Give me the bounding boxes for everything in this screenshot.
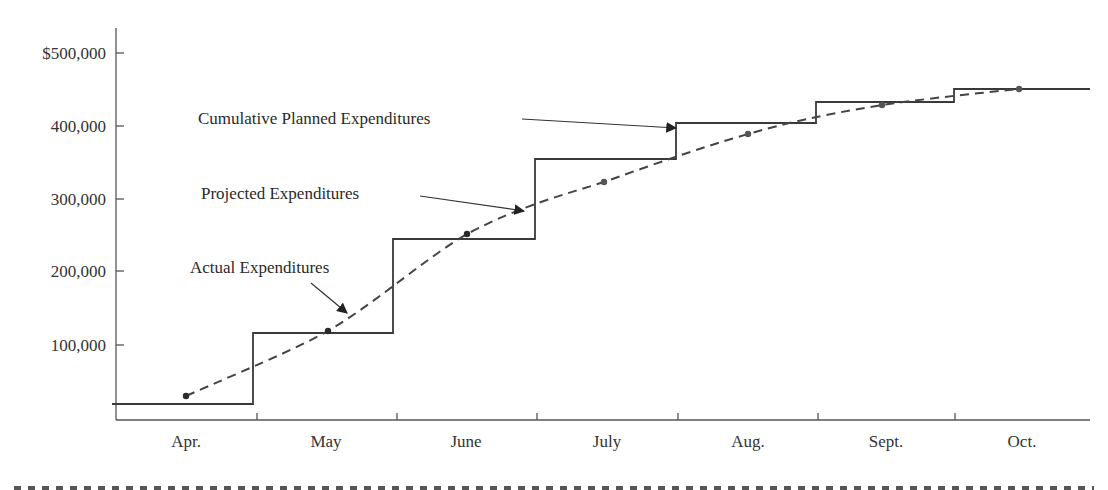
y-ticks (116, 53, 124, 345)
data-point (601, 179, 607, 185)
y-tick-label: 100,000 (51, 336, 106, 355)
projected-dashed-line (186, 89, 1019, 396)
annotation-projected: Projected Expenditures (201, 184, 359, 203)
x-tick-label: Apr. (171, 432, 201, 451)
arrow-icon (311, 283, 347, 313)
x-tick-label: June (450, 432, 481, 451)
data-point (879, 102, 885, 108)
x-tick-label: July (593, 432, 622, 451)
data-point (325, 328, 331, 334)
y-tick-label: 200,000 (51, 262, 106, 281)
arrow-icon (522, 119, 676, 128)
data-point (183, 393, 189, 399)
y-tick-label: 300,000 (51, 190, 106, 209)
y-tick-label: $500,000 (42, 44, 106, 63)
x-tick-label: Aug. (731, 432, 765, 451)
planned-step-line (112, 89, 1090, 404)
x-tick-label: Sept. (869, 432, 903, 451)
x-ticks (257, 413, 955, 420)
data-points (183, 86, 1022, 399)
x-tick-label: May (310, 432, 342, 451)
data-point (464, 231, 470, 237)
data-point (1016, 86, 1022, 92)
data-point (745, 131, 751, 137)
annotation-planned: Cumulative Planned Expenditures (198, 109, 430, 128)
y-tick-labels: $500,000 400,000 300,000 200,000 100,000 (42, 44, 106, 355)
expenditure-chart: $500,000 400,000 300,000 200,000 100,000… (0, 0, 1108, 490)
y-tick-label: 400,000 (51, 117, 106, 136)
x-tick-label: Oct. (1008, 432, 1037, 451)
x-tick-labels: Apr. May June July Aug. Sept. Oct. (171, 432, 1036, 451)
arrow-icon (420, 196, 524, 211)
annotation-actual: Actual Expenditures (190, 258, 329, 277)
